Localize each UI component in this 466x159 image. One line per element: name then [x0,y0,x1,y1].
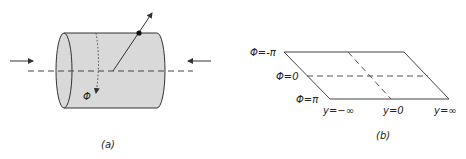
particle-dot [136,30,141,35]
phi-minus-pi-label: Φ=-π [250,47,277,58]
caption-b: (b) [376,130,390,141]
y-zero-dashed-line [348,52,391,99]
y-inf-label: y=∞ [433,105,457,116]
caption-a: (a) [101,139,115,150]
phi-pi-label: Φ=π [296,94,319,105]
angle-label: Φ [83,91,91,102]
y-minus-inf-label: y=−∞ [322,105,354,116]
panel-a-cylinder: Φ (a) [10,13,211,150]
y-zero-label: y=0 [382,105,404,116]
figure: Φ (a) Φ=-π Φ=0 Φ=π y=−∞ y=0 y=∞ (b) [0,0,466,159]
panel-b-strip: Φ=-π Φ=0 Φ=π y=−∞ y=0 y=∞ (b) [250,47,457,141]
phi-zero-label: Φ=0 [276,71,299,82]
